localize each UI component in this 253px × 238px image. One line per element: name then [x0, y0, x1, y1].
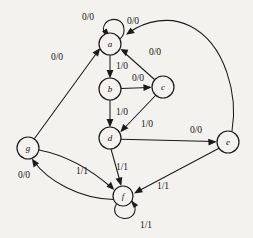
arrowhead-b-d [107, 119, 114, 128]
transition-b-to-d: 1/0 [107, 100, 129, 128]
arrowhead-a-b [107, 70, 114, 79]
edge-f-g-path [34, 161, 114, 200]
edge-label-g-f: 1/1 [76, 166, 88, 176]
edge-label-d-f: 1/1 [116, 162, 128, 172]
state-node-f[interactable]: f [113, 186, 133, 206]
edge-label-b-d: 1/0 [116, 107, 128, 117]
transition-d-to-e: 0/0 [121, 125, 217, 145]
edge-label-e-f: 1/1 [157, 181, 169, 191]
state-label-d: d [108, 133, 113, 143]
arrowhead-g-a [93, 48, 101, 57]
edge-label-g-a: 0/0 [51, 52, 63, 62]
state-label-c: c [161, 82, 165, 92]
transition-f-to-g: 0/0 [18, 159, 114, 200]
arrowhead-e-f [134, 186, 143, 193]
arrowhead-g-f [107, 182, 115, 190]
transition-g-to-a: 0/0 [35, 48, 101, 138]
state-node-b[interactable]: b [99, 78, 121, 100]
edge-label-d-e: 0/0 [190, 125, 202, 135]
edge-label-f-f: 1/1 [140, 220, 152, 230]
edge-label-f-g: 0/0 [18, 170, 30, 180]
fsm-canvas: 0/0 1/0 0/0 1/0 0/0 [0, 0, 253, 238]
transition-b-to-c: 0/0 [121, 73, 152, 91]
edge-e-f-path [137, 149, 219, 193]
state-node-c[interactable]: c [152, 76, 174, 98]
edge-label-c-d: 1/0 [141, 119, 153, 129]
edge-label-e-a: 0/0 [127, 16, 139, 26]
edge-label-a-b: 1/0 [116, 61, 128, 71]
transition-d-to-f: 1/1 [111, 149, 128, 186]
edge-label-b-c: 0/0 [132, 73, 144, 83]
state-label-g: g [26, 143, 31, 153]
edge-d-e-path [121, 139, 214, 141]
state-node-d[interactable]: d [99, 127, 121, 149]
state-label-b: b [108, 84, 113, 94]
edge-label-a-a: 0/0 [82, 12, 94, 22]
transition-g-to-f: 1/1 [39, 150, 114, 190]
edge-e-a-path [129, 20, 234, 131]
arrowhead-d-e [208, 139, 217, 146]
arrowhead-e-a [126, 28, 135, 35]
state-label-a: a [108, 39, 113, 49]
edge-label-c-a: 0/0 [149, 47, 161, 57]
state-node-a[interactable]: a [99, 33, 121, 55]
state-node-g[interactable]: g [17, 137, 39, 159]
arrowhead-d-f [116, 177, 123, 186]
arrowhead-b-c [143, 84, 152, 91]
state-label-e: e [226, 137, 230, 147]
state-machine-diagram: 0/0 1/0 0/0 1/0 0/0 [0, 0, 253, 238]
transition-e-to-f: 1/1 [134, 149, 219, 194]
transition-a-to-b: 1/0 [107, 55, 129, 79]
edge-g-a-path [35, 51, 99, 139]
state-node-e[interactable]: e [217, 131, 239, 153]
